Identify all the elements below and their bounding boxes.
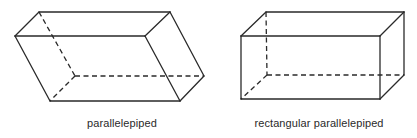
visible-edge	[145, 12, 170, 36]
hidden-edge	[241, 75, 267, 99]
hidden-edge	[50, 76, 75, 101]
rectangular-parallelepiped-label: rectangular parallelepiped	[254, 117, 383, 129]
visible-edge	[180, 76, 204, 101]
hidden-edge	[39, 12, 75, 76]
visible-edge	[170, 12, 204, 76]
visible-edge	[241, 12, 266, 36]
rectangular-parallelepiped-figure	[241, 12, 404, 99]
parallelepiped-label: parallelepiped	[87, 117, 157, 129]
visible-edge	[380, 75, 404, 99]
visible-edge	[145, 36, 180, 101]
parallelepiped-figure	[15, 12, 204, 101]
visible-edge	[15, 12, 39, 36]
visible-edge	[380, 12, 404, 36]
visible-edge	[15, 36, 50, 101]
hidden-edge	[266, 12, 267, 75]
